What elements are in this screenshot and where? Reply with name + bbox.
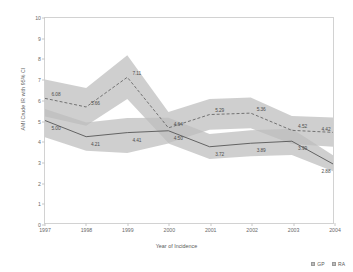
chart-container: AMI Crude IR with 95% CI 012345678910 19… [0, 0, 353, 272]
plot-area: 012345678910 199719981999200020012002200… [44, 17, 334, 224]
x-axis-tick-mark [335, 223, 336, 226]
legend-item-ra[interactable]: RA [332, 261, 345, 267]
x-axis-tick-label: 2001 [205, 227, 217, 233]
y-axis-tick-label: 9 [38, 36, 41, 42]
y-axis-tick-label: 8 [38, 56, 41, 62]
legend-label: GP [317, 261, 324, 267]
x-axis-tick-mark [169, 223, 170, 226]
y-axis-tick-label: 6 [38, 98, 41, 104]
x-axis-tick-mark [127, 223, 128, 226]
y-axis-tick-label: 3 [38, 160, 41, 166]
x-axis-tick-mark [210, 223, 211, 226]
y-axis-tick-label: 2 [38, 181, 41, 187]
point-label: 4.21 [91, 141, 100, 146]
point-label: 7.11 [133, 70, 142, 75]
point-label: 3.72 [215, 151, 224, 156]
x-axis-tick-label: 1997 [39, 227, 51, 233]
point-label: 4.64 [174, 121, 183, 126]
chart-plot-svg [45, 18, 333, 223]
x-axis-tick-label: 1998 [81, 227, 93, 233]
point-label: 4.41 [132, 137, 141, 142]
y-axis-tick-label: 5 [38, 119, 41, 125]
legend-label: RA [338, 261, 345, 267]
x-axis-tick-label: 2002 [246, 227, 258, 233]
point-label: 2.88 [322, 169, 331, 174]
point-label: 4.42 [322, 126, 331, 131]
chart-legend: GPRA [311, 261, 345, 267]
point-label: 4.52 [298, 124, 307, 129]
legend-item-gp[interactable]: GP [311, 261, 325, 267]
point-label: 5.00 [52, 125, 61, 130]
y-axis-tick-label: 7 [38, 77, 41, 83]
x-axis-title: Year of Incidence [0, 243, 353, 249]
point-label: 6.08 [52, 92, 61, 97]
x-axis-tick-mark [252, 223, 253, 226]
x-axis-tick-label: 2000 [164, 227, 176, 233]
point-label: 5.66 [91, 100, 100, 105]
y-axis-title: AMI Crude IR with 95% CI [20, 24, 26, 174]
x-axis-tick-mark [293, 223, 294, 226]
x-axis-tick-label: 2003 [288, 227, 300, 233]
legend-swatch-icon [332, 262, 336, 266]
x-axis-tick-label: 2004 [329, 227, 341, 233]
point-label: 3.99 [298, 146, 307, 151]
y-axis-tick-label: 10 [35, 15, 41, 21]
point-label: 4.50 [174, 135, 183, 140]
point-label: 3.89 [257, 148, 266, 153]
point-label: 5.36 [257, 107, 266, 112]
y-axis-tick-label: 1 [38, 201, 41, 207]
x-axis-tick-label: 1999 [122, 227, 134, 233]
y-axis-tick-label: 4 [38, 139, 41, 145]
x-axis-tick-mark [86, 223, 87, 226]
x-axis-tick-mark [45, 223, 46, 226]
legend-swatch-icon [311, 262, 315, 266]
point-label: 5.29 [215, 108, 224, 113]
